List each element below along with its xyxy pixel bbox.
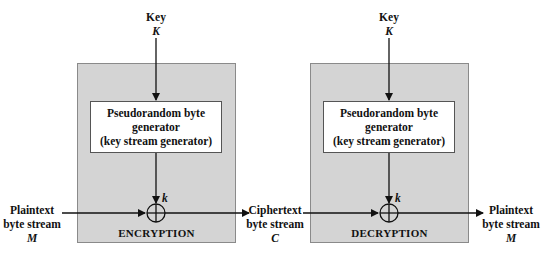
encryption-key-label: Key K	[126, 10, 186, 38]
decryption-key-label: Key K	[359, 10, 419, 38]
ciphertext-label: Ciphertext byte stream C	[242, 203, 308, 245]
plaintext-input-label: Plaintext byte stream M	[0, 203, 64, 245]
encryption-keystream-symbol: k	[162, 191, 168, 205]
encryption-xor-icon	[147, 204, 165, 222]
key-symbol: K	[359, 24, 419, 38]
decryption-xor-icon	[380, 204, 398, 222]
decryption-keystream-symbol: k	[395, 191, 401, 205]
key-symbol: K	[126, 24, 186, 38]
plaintext-output-label: Plaintext byte stream M	[478, 203, 544, 245]
